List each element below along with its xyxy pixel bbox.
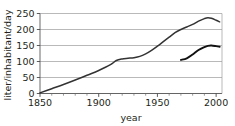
y-axis-title: liter/inhabitant/day <box>2 9 13 100</box>
y-tick-label: 250 <box>16 8 34 19</box>
y-tick-label: 100 <box>16 56 34 67</box>
y-tick-label: 0 <box>28 88 34 99</box>
y-tick-label: 50 <box>22 72 34 83</box>
chart-container: 1850190019502000 050100150200250 year li… <box>0 0 235 126</box>
y-tick-label: 150 <box>16 40 34 51</box>
x-axis-title: year <box>120 112 141 123</box>
y-tick-label: 200 <box>16 24 34 35</box>
line-chart: 1850190019502000 050100150200250 year li… <box>0 0 235 126</box>
x-tick-label: 1950 <box>145 97 169 108</box>
x-tick-label: 1900 <box>87 97 111 108</box>
x-tick-label: 2000 <box>204 97 228 108</box>
